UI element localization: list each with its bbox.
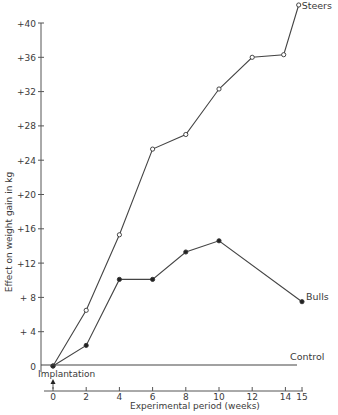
steers-marker [217, 87, 221, 91]
steers-label: Steers [302, 0, 332, 10]
y-tick-label: +40 [17, 19, 36, 29]
y-tick-label: + 8 [20, 293, 36, 303]
x-tick-label: 0 [50, 392, 56, 402]
bulls-marker [84, 343, 88, 347]
y-tick-label: +36 [17, 53, 36, 63]
bulls-marker [184, 250, 188, 254]
bulls-marker [117, 277, 121, 281]
y-tick-label: + 4 [20, 327, 36, 337]
steers-marker [297, 3, 301, 7]
y-tick-label: +12 [17, 259, 36, 269]
steers-marker [84, 308, 88, 312]
steers-marker [184, 132, 188, 136]
x-tick-label: 15 [296, 392, 307, 402]
steers-line [53, 5, 299, 366]
y-axis-title: Effect on weight gain in kg [4, 172, 14, 292]
x-axis: 0246810121415Experimental period (weeks) [44, 387, 308, 411]
y-tick-label: +32 [17, 87, 36, 97]
bulls-line [53, 241, 302, 366]
bulls-marker [217, 239, 221, 243]
implantation-label: Implantation [38, 369, 95, 379]
x-tick-label: 14 [280, 392, 292, 402]
y-tick-label: +28 [17, 121, 36, 131]
steers-marker [282, 53, 286, 57]
labels-layer: SteersBullsControlImplantation [38, 0, 332, 389]
x-tick-label: 4 [117, 392, 123, 402]
steers-marker [117, 233, 121, 237]
y-tick-label: +20 [17, 190, 36, 200]
control-label: Control [290, 351, 324, 362]
y-tick-label: +24 [17, 156, 36, 166]
x-axis-title: Experimental period (weeks) [130, 401, 260, 411]
bulls-marker [151, 277, 155, 281]
steers-marker [151, 147, 155, 151]
bulls-label: Bulls [306, 291, 329, 302]
weight-gain-line-chart: 0+ 4+ 8+12+16+20+24+28+32+36+40Effect on… [0, 0, 338, 415]
y-axis: 0+ 4+ 8+12+16+20+24+28+32+36+40Effect on… [4, 19, 44, 373]
implantation-arrow-icon [51, 379, 56, 384]
y-tick-label: 0 [30, 362, 36, 372]
bulls-marker [300, 300, 304, 304]
steers-marker [250, 55, 254, 59]
y-tick-label: +16 [17, 224, 36, 234]
x-tick-label: 2 [83, 392, 89, 402]
series-layer [41, 3, 304, 368]
